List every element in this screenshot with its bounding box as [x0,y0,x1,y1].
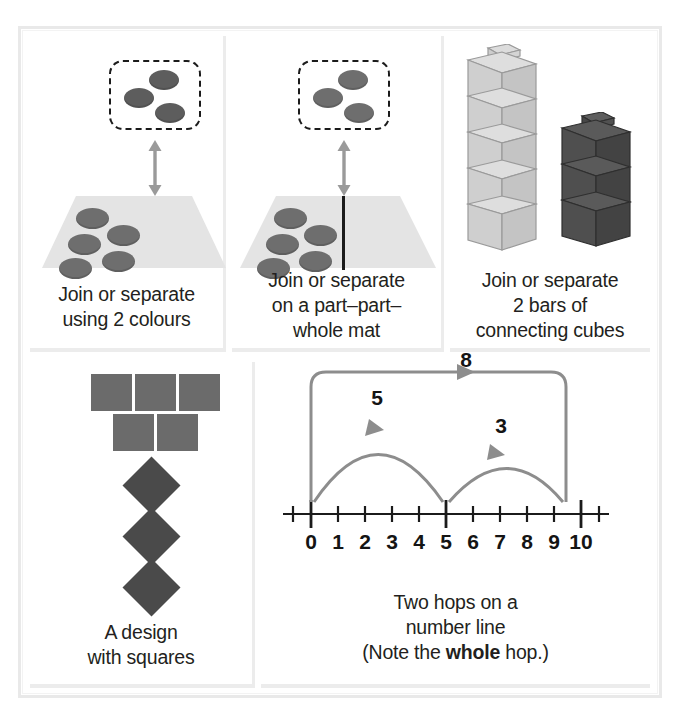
design-diamond [123,508,181,566]
caption-note-bold: whole [446,641,500,663]
caption-line: whole mat [232,318,441,343]
design-square [135,374,176,411]
caption-line: Join or separate [450,268,650,293]
counter [313,88,343,108]
hop-label-part-1: 5 [362,386,392,410]
caption-line: connecting cubes [450,318,650,343]
counter [124,88,154,108]
light-cube-bar [458,44,550,254]
figure-root: Join or separate using 2 colours [0,0,678,721]
caption-line: using 2 colours [30,307,223,332]
dark-cube-bar [554,112,646,262]
panel-part-part-whole-mat: Join or separate on a part–part– whole m… [232,36,444,352]
tick-label-5: 5 [431,530,461,554]
caption-line: number line [261,615,650,640]
counter [149,70,179,90]
caption-note-suffix: hop.) [500,641,549,663]
number-line-illustration: 8 5 3 0 1 2 3 4 5 6 7 8 9 10 [261,362,650,572]
hop-label-part-2: 3 [486,414,516,438]
connecting-cubes-illustration [450,36,650,256]
counters-illustration [30,36,223,266]
caption-line: with squares [30,645,252,670]
panel-connecting-cubes: Join or separate 2 bars of connecting cu… [450,36,650,352]
design-square [179,374,220,411]
mat-part-divider [342,196,345,270]
tick-label-4: 4 [404,530,434,554]
caption-line: Join or separate [232,268,441,293]
panel-caption: Join or separate on a part–part– whole m… [232,268,441,343]
counter [304,225,337,246]
tick-label-10: 10 [566,530,596,554]
counter [344,103,374,123]
counter [274,208,307,229]
design-diamond [123,457,181,515]
tick-label-7: 7 [485,530,515,554]
counter [266,234,299,255]
design-square [157,414,198,451]
caption-line: Join or separate [30,282,223,307]
counter [59,258,92,279]
panel-number-line: 8 5 3 0 1 2 3 4 5 6 7 8 9 10 Two hops on… [261,362,650,688]
tick-label-2: 2 [350,530,380,554]
dashed-counter-group [298,60,390,130]
caption-line: Two hops on a [261,590,650,615]
panel-caption: Join or separate using 2 colours [30,282,223,332]
design-square [113,414,154,451]
caption-line: 2 bars of [450,293,650,318]
ppw-mat-illustration [232,36,441,266]
tick-label-3: 3 [377,530,407,554]
panel-caption: A design with squares [30,620,252,670]
design-illustration [30,362,252,612]
counter [102,251,135,272]
counter [107,225,140,246]
panel-design-with-squares: A design with squares [30,362,255,688]
tick-label-8: 8 [512,530,542,554]
hop-label-whole: 8 [451,348,481,372]
caption-line: on a part–part– [232,293,441,318]
tick-label-0: 0 [296,530,326,554]
panel-caption: Join or separate 2 bars of connecting cu… [450,268,650,343]
design-diamond [123,559,181,617]
double-arrow-icon [143,140,167,196]
caption-note-prefix: (Note the [362,641,446,663]
dashed-counter-group [109,60,201,130]
counter [155,103,185,123]
caption-note: (Note the whole hop.) [261,640,650,665]
panel-join-separate-counters: Join or separate using 2 colours [30,36,226,352]
panel-caption: Two hops on a number line (Note the whol… [261,590,650,665]
double-arrow-icon [332,140,356,196]
counter [68,234,101,255]
caption-line: A design [30,620,252,645]
tick-label-6: 6 [458,530,488,554]
tick-label-9: 9 [539,530,569,554]
tick-label-1: 1 [323,530,353,554]
design-square [91,374,132,411]
counter [338,70,368,90]
counter [76,208,109,229]
